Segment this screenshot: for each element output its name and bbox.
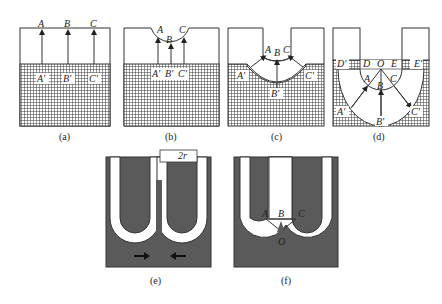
panel-a: A B C A' B' C' (a) <box>20 18 110 143</box>
label-c-C: C <box>283 44 290 55</box>
caption-f: (f) <box>281 275 291 287</box>
caption-d: (d) <box>373 131 385 143</box>
label-c-B-prime: B' <box>271 88 280 99</box>
label-c-B: B <box>274 47 280 58</box>
label-a-B: B <box>64 18 70 29</box>
label-c-A-prime: A' <box>236 70 246 81</box>
label-a-C: C <box>90 18 97 29</box>
label-d-D: D <box>362 58 371 69</box>
panel-e: 2r (e) <box>106 150 211 287</box>
label-a-A: A <box>37 18 45 29</box>
caption-a: (a) <box>59 131 70 143</box>
label-d-C: C <box>390 73 397 84</box>
label-d-B-prime: B' <box>376 116 385 127</box>
label-c-A: A <box>264 44 272 55</box>
label-b-B: B <box>166 34 172 45</box>
caption-e: (e) <box>150 275 161 287</box>
label-f-C: C <box>298 208 305 219</box>
label-a-B-prime: B' <box>63 73 72 84</box>
label-d-A: A <box>363 73 371 84</box>
label-d-C-prime: C' <box>411 106 421 117</box>
label-d-E: E <box>390 58 397 69</box>
label-d-B: B <box>377 80 383 91</box>
panel-d: D' D O E E' A B C A' B' C' (d) <box>333 28 429 143</box>
label-b-A-prime: A' <box>151 68 161 79</box>
label-b-C-prime: C' <box>178 68 188 79</box>
label-f-B: B <box>278 208 284 219</box>
label-c-C-prime: C' <box>305 70 315 81</box>
label-d-A-prime: A' <box>336 106 346 117</box>
caption-b: (b) <box>165 131 177 143</box>
caption-c: (c) <box>271 131 282 143</box>
label-f-O: O <box>278 236 285 247</box>
label-b-C: C <box>179 24 186 35</box>
label-b-B-prime: B' <box>165 68 174 79</box>
label-b-A: A <box>156 24 164 35</box>
diagram-canvas: A B C A' B' C' (a) A B C A' B' C' (b) A <box>0 0 442 304</box>
panel-b: A B C A' B' C' (b) <box>124 24 219 143</box>
label-e-2r: 2r <box>178 150 187 161</box>
label-a-A-prime: A' <box>36 73 46 84</box>
label-d-O: O <box>377 58 384 69</box>
label-d-E-prime: E' <box>413 58 423 69</box>
label-d-D-prime: D' <box>336 58 347 69</box>
label-a-C-prime: C' <box>89 73 99 84</box>
panel-c: A B C A' B' C' (c) <box>228 28 324 143</box>
panel-f: A B C O (f) <box>234 157 338 287</box>
label-f-A: A <box>261 208 269 219</box>
